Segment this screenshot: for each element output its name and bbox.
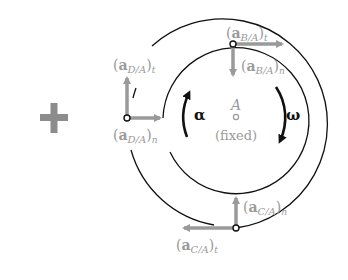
- outer-path-arc-top-right: [152, 19, 327, 228]
- center-fixed-note: (fixed): [215, 128, 257, 143]
- label-d-tangential: (aD/A)t: [113, 57, 156, 75]
- point-b: [230, 41, 236, 47]
- label-c-tangential: (aC/A)t: [176, 237, 218, 255]
- outer-path-arc-left: [133, 88, 136, 98]
- point-c: [233, 225, 239, 231]
- relative-acceleration-diagram: A (fixed) α ω (aB/A)t (aB/A)n (aD/A)t (a…: [0, 0, 348, 280]
- alpha-label: α: [194, 106, 206, 124]
- pivot-point-a: [233, 114, 238, 119]
- center-label: A: [229, 97, 241, 113]
- omega-arrow-icon: [276, 87, 285, 141]
- label-c-normal: (aC/A)n: [243, 199, 287, 217]
- label-b-normal: (aB/A)n: [241, 58, 285, 76]
- label-d-normal: (aD/A)n: [113, 127, 158, 145]
- label-b-tangential: (aB/A)t: [226, 25, 268, 43]
- plus-icon: [40, 103, 68, 133]
- omega-label: ω: [286, 106, 300, 124]
- alpha-arrow-icon: [183, 93, 189, 137]
- outer-path-arc-bottom-left: [131, 150, 214, 225]
- point-d: [124, 115, 130, 121]
